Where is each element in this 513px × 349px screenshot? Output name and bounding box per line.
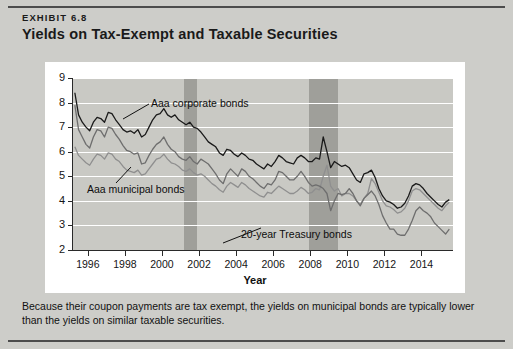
x-axis-tick-label: 2014: [401, 258, 441, 270]
y-axis-tick-label: 9: [45, 72, 65, 83]
y-axis-tick-label: 4: [45, 195, 65, 206]
annotation-municipal-bonds: Aaa municipal bonds: [87, 183, 184, 195]
x-axis-tick-label: 2012: [364, 258, 404, 270]
x-axis-tick-label: 2010: [327, 258, 367, 270]
y-axis-tick-label: 8: [45, 97, 65, 108]
x-axis-tick: [125, 251, 126, 256]
annotation-corporate-bonds: Aaa corporate bonds: [151, 97, 248, 109]
x-axis-tick: [384, 251, 385, 256]
y-axis-tick: [68, 176, 72, 177]
plot-area: [73, 78, 453, 250]
series-line: [75, 105, 449, 235]
y-axis-tick-label: 7: [45, 121, 65, 132]
y-axis-tick: [68, 201, 72, 202]
x-axis-tick-label: 1998: [105, 258, 145, 270]
exhibit-caption: Because their coupon payments are tax ex…: [22, 300, 494, 327]
y-axis-line: [72, 78, 73, 251]
x-axis-tick: [236, 251, 237, 256]
y-axis-tick-label: 6: [45, 146, 65, 157]
y-axis-tick: [68, 103, 72, 104]
x-axis-tick-label: 2006: [253, 258, 293, 270]
y-axis-tick: [68, 152, 72, 153]
annotation-treasury-bonds: 20-year Treasury bonds: [241, 228, 352, 240]
x-axis-tick: [162, 251, 163, 256]
exhibit-header: EXHIBIT 6.8 Yields on Tax-Exempt and Tax…: [22, 12, 492, 43]
exhibit-number: EXHIBIT 6.8: [22, 12, 492, 24]
exhibit-container: EXHIBIT 6.8 Yields on Tax-Exempt and Tax…: [0, 0, 513, 349]
series-line: [75, 147, 449, 213]
y-axis-tick-label: 5: [45, 170, 65, 181]
chart-panel: 23456789 1996199820002002200420062008201…: [45, 62, 465, 293]
x-axis-title: Year: [45, 274, 465, 286]
series-svg: [73, 78, 453, 250]
top-divider-rule: [8, 6, 505, 8]
x-axis-tick-label: 2004: [216, 258, 256, 270]
x-axis-tick: [273, 251, 274, 256]
x-axis-tick: [199, 251, 200, 256]
y-axis-tick: [68, 225, 72, 226]
x-axis-tick-label: 2008: [290, 258, 330, 270]
y-axis-tick: [68, 250, 72, 251]
x-axis-line: [72, 250, 453, 251]
exhibit-title: Yields on Tax-Exempt and Taxable Securit…: [22, 25, 492, 43]
x-axis-tick: [421, 251, 422, 256]
y-axis-tick: [68, 127, 72, 128]
x-axis-tick: [310, 251, 311, 256]
y-axis-tick: [68, 78, 72, 79]
bottom-divider-rule: [8, 340, 505, 342]
x-axis-tick-label: 2002: [179, 258, 219, 270]
x-axis-tick: [88, 251, 89, 256]
x-axis-tick-label: 2000: [142, 258, 182, 270]
y-axis-tick-label: 3: [45, 219, 65, 230]
x-axis-tick: [347, 251, 348, 256]
x-axis-tick-label: 1996: [68, 258, 108, 270]
y-axis-tick-label: 2: [45, 244, 65, 255]
